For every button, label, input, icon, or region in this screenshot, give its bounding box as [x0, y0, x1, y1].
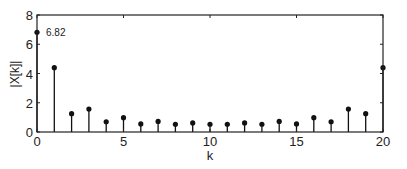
stem-marker	[69, 111, 74, 116]
stem-marker	[104, 119, 109, 124]
x-tick-label: 0	[33, 134, 40, 149]
stem-marker	[52, 65, 57, 70]
plot-area	[34, 30, 385, 132]
stem-marker	[207, 122, 212, 127]
x-tick-label: 15	[289, 134, 303, 149]
x-tick-label: 5	[120, 134, 127, 149]
stem-marker	[138, 121, 143, 126]
y-tick-label: 2	[26, 96, 33, 111]
y-axis-label: |X[k]|	[8, 61, 22, 88]
stem-marker	[294, 121, 299, 126]
stem-marker	[121, 115, 126, 120]
x-axis-ticks: 05101520	[33, 15, 390, 149]
stem-marker	[156, 119, 161, 124]
stem-marker	[225, 122, 230, 127]
stem-chart: 05101520 02468 k |X[k]| 6.82	[0, 0, 407, 169]
x-tick-label: 20	[376, 134, 390, 149]
y-tick-label: 4	[26, 67, 33, 82]
x-axis-label: k	[207, 148, 214, 163]
stem-marker	[277, 119, 282, 124]
stem-marker	[363, 111, 368, 116]
stem-marker	[242, 120, 247, 125]
y-tick-label: 8	[26, 8, 33, 23]
stem-marker	[259, 122, 264, 127]
stem-marker	[311, 115, 316, 120]
y-tick-label: 0	[26, 125, 33, 140]
stem-marker	[86, 106, 91, 111]
x-tick-label: 10	[203, 134, 217, 149]
peak-annotation: 6.82	[46, 27, 66, 38]
stem-marker	[346, 106, 351, 111]
y-tick-label: 6	[26, 37, 33, 52]
stem-marker	[329, 119, 334, 124]
stem-marker	[173, 122, 178, 127]
stem-marker	[190, 120, 195, 125]
